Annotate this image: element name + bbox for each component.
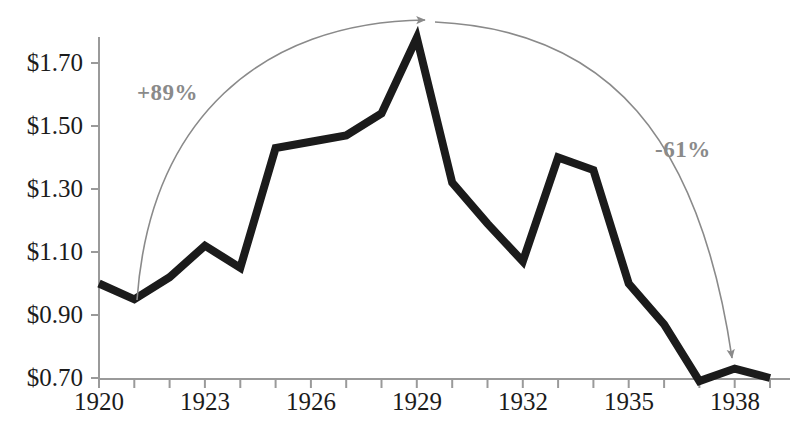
- axis-lines: [99, 37, 790, 379]
- x-tick-label: 1932: [498, 388, 548, 416]
- x-tick-label: 1920: [74, 388, 124, 416]
- rise-arrow-arc: [137, 20, 425, 300]
- x-tick-label: 1923: [180, 388, 230, 416]
- y-tick-label: $1.10: [27, 238, 83, 266]
- y-tick-label: $1.50: [27, 112, 83, 140]
- price-line-series: [99, 38, 770, 381]
- x-tick-label: 1935: [604, 388, 654, 416]
- rise-annotation-label: +89%: [137, 80, 198, 106]
- x-axis-ticks: [99, 379, 770, 388]
- fall-arrow-arc: [435, 22, 732, 358]
- fall-annotation-label: -61%: [655, 137, 711, 163]
- chart-figure: $1.70 $1.50 $1.30 $1.10 $0.90 $0.70 1920…: [0, 0, 807, 437]
- y-tick-label: $1.30: [27, 175, 83, 203]
- y-tick-label: $0.90: [27, 301, 83, 329]
- y-tick-label: $1.70: [27, 49, 83, 77]
- y-axis-ticks: [91, 63, 99, 378]
- x-tick-label: 1926: [286, 388, 336, 416]
- x-tick-label: 1929: [392, 388, 442, 416]
- chart-canvas: [0, 0, 807, 437]
- x-tick-label: 1938: [710, 388, 760, 416]
